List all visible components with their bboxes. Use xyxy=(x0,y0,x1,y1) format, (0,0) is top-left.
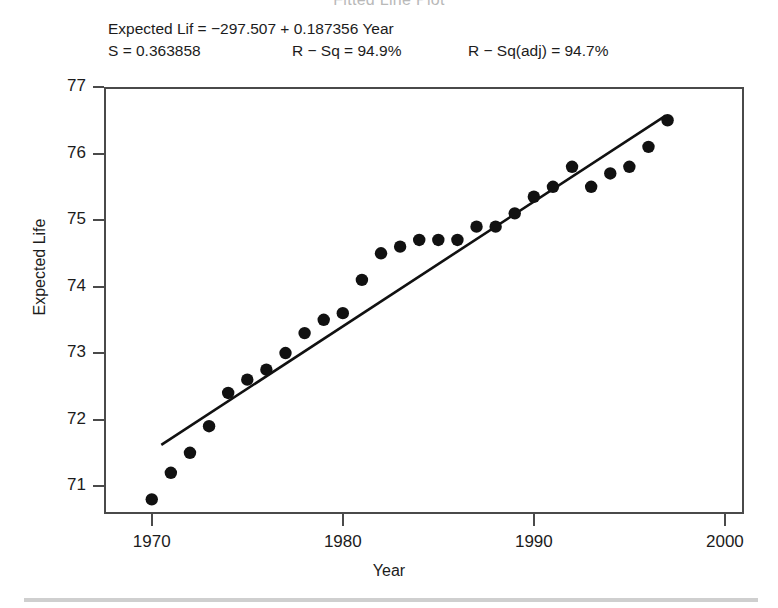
data-point xyxy=(146,493,158,505)
plot-canvas xyxy=(104,87,744,514)
data-point xyxy=(642,141,654,153)
y-axis-tick xyxy=(93,485,104,487)
y-axis-tick-label: 72 xyxy=(46,409,86,429)
data-point xyxy=(547,181,559,193)
y-axis-title: Expected Life xyxy=(31,167,49,367)
data-point xyxy=(509,207,521,219)
y-axis-tick-label: 71 xyxy=(46,475,86,495)
regression-fit-line xyxy=(161,116,665,445)
data-point xyxy=(585,181,597,193)
y-axis-tick-label: 75 xyxy=(46,209,86,229)
x-axis-title: Year xyxy=(0,562,778,580)
y-axis-tick xyxy=(93,286,104,288)
page-divider-rule xyxy=(24,598,758,602)
x-axis-tick-label: 1970 xyxy=(112,532,192,552)
x-axis-tick xyxy=(151,514,153,526)
data-point xyxy=(432,234,444,246)
data-point xyxy=(184,447,196,459)
r-squared-statistic: R − Sq = 94.9% xyxy=(292,40,401,62)
data-point xyxy=(451,234,463,246)
data-point xyxy=(241,373,253,385)
regression-equation: Expected Lif = −297.507 + 0.187356 Year xyxy=(108,18,394,40)
fitted-line-plot-figure: Fitted Line Plot Expected Lif = −297.507… xyxy=(0,0,778,608)
data-point xyxy=(528,191,540,203)
y-axis-tick xyxy=(93,419,104,421)
x-axis-tick xyxy=(724,514,726,526)
data-point xyxy=(661,114,673,126)
x-axis-tick xyxy=(342,514,344,526)
data-point xyxy=(375,247,387,259)
y-axis-tick xyxy=(93,86,104,88)
x-axis-tick-label: 1980 xyxy=(303,532,383,552)
data-point xyxy=(623,161,635,173)
y-axis-tick-label: 74 xyxy=(46,276,86,296)
data-point xyxy=(470,220,482,232)
data-point xyxy=(489,220,501,232)
data-point xyxy=(279,347,291,359)
data-point xyxy=(356,274,368,286)
s-statistic: S = 0.363858 xyxy=(108,40,201,62)
data-point xyxy=(566,161,578,173)
data-point xyxy=(203,420,215,432)
data-point xyxy=(165,467,177,479)
data-point xyxy=(318,314,330,326)
clipped-figure-title: Fitted Line Plot xyxy=(0,0,778,9)
r-squared-adjusted-statistic: R − Sq(adj) = 94.7% xyxy=(468,40,608,62)
x-axis-tick xyxy=(533,514,535,526)
y-axis-tick xyxy=(93,153,104,155)
y-axis-tick xyxy=(93,219,104,221)
y-axis-tick xyxy=(93,352,104,354)
y-axis-tick-label: 73 xyxy=(46,342,86,362)
y-axis-tick-label: 77 xyxy=(46,76,86,96)
x-axis-tick-label: 1990 xyxy=(494,532,574,552)
data-point xyxy=(413,234,425,246)
data-point xyxy=(604,167,616,179)
y-axis-tick-label: 76 xyxy=(46,143,86,163)
data-point xyxy=(222,387,234,399)
data-point xyxy=(337,307,349,319)
data-point xyxy=(394,240,406,252)
data-point xyxy=(260,363,272,375)
data-point xyxy=(298,327,310,339)
x-axis-tick-label: 2000 xyxy=(685,532,765,552)
